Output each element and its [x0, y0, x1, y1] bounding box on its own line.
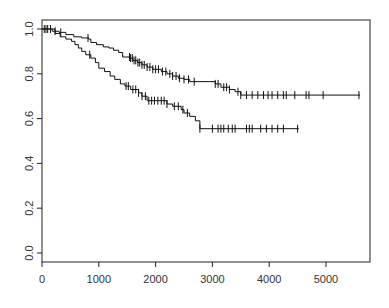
x-tick-label: 3000 [200, 273, 224, 285]
step-line [42, 29, 299, 129]
x-tick-label: 2000 [143, 273, 167, 285]
y-tick-label: 0.0 [23, 245, 35, 260]
y-tick-label: 0.2 [23, 201, 35, 216]
x-tick-label: 4000 [257, 273, 281, 285]
y-axis: 0.00.20.40.60.81.0 [23, 21, 42, 260]
survival-curve-2 [42, 29, 299, 133]
x-axis: 010002000300040005000 [39, 262, 338, 285]
y-tick-label: 0.4 [23, 156, 35, 171]
x-tick-label: 0 [39, 273, 45, 285]
step-line [42, 29, 360, 95]
x-tick-label: 1000 [87, 273, 111, 285]
y-tick-label: 0.8 [23, 66, 35, 81]
kaplan-meier-chart: 0.00.20.40.60.81.0 010002000300040005000 [0, 0, 389, 308]
y-tick-label: 0.6 [23, 111, 35, 126]
survival-curve-1 [42, 25, 360, 99]
series-layer [42, 25, 360, 133]
x-tick-label: 5000 [314, 273, 338, 285]
y-tick-label: 1.0 [23, 21, 35, 36]
